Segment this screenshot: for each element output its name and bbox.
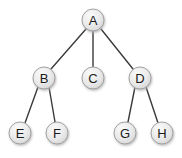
tree-node-label-c: C: [88, 71, 97, 86]
tree-node-label-f: F: [53, 126, 61, 141]
tree-edge-b-f: [49, 87, 55, 122]
tree-node-label-g: G: [120, 126, 130, 141]
tree-node-e[interactable]: E: [9, 122, 31, 144]
tree-node-b[interactable]: B: [33, 67, 55, 89]
tree-node-label-b: B: [40, 71, 49, 86]
tree-edge-b-e: [25, 87, 38, 123]
tree-edge-a-d: [101, 29, 133, 69]
tree-edge-d-h: [146, 87, 158, 123]
tree-node-a[interactable]: A: [82, 9, 104, 31]
tree-diagram: ABCDEFGH: [0, 0, 182, 158]
tree-diagram-canvas: ABCDEFGH: [0, 0, 182, 158]
tree-edge-a-b: [51, 29, 86, 69]
tree-node-d[interactable]: D: [129, 67, 151, 89]
tree-node-label-h: H: [157, 126, 166, 141]
tree-edge-d-g: [128, 87, 135, 122]
tree-node-f[interactable]: F: [46, 122, 68, 144]
tree-node-c[interactable]: C: [82, 67, 104, 89]
tree-node-g[interactable]: G: [114, 122, 136, 144]
tree-node-label-a: A: [89, 13, 98, 28]
tree-node-label-e: E: [16, 126, 25, 141]
nodes-layer: ABCDEFGH: [9, 9, 173, 144]
tree-node-label-d: D: [135, 71, 144, 86]
tree-node-h[interactable]: H: [151, 122, 173, 144]
